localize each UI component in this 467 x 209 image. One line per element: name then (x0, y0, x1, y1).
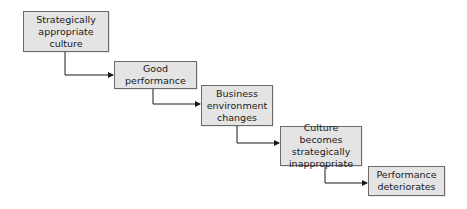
edge-n1-n2 (65, 52, 113, 75)
node-label: Strategically appropriate culture (36, 14, 96, 50)
edge-n2-n3 (153, 89, 200, 104)
node-strategically-appropriate-culture: Strategically appropriate culture (23, 11, 109, 52)
node-label: Culture becomes strategically inappropri… (284, 122, 358, 170)
node-performance-deteriorates: Performance deteriorates (368, 166, 445, 196)
node-label: Good performance (125, 63, 186, 87)
node-business-environment-changes: Business environment changes (201, 85, 273, 126)
node-good-performance: Good performance (114, 61, 197, 89)
edge-n3-n4 (237, 126, 279, 143)
node-culture-becomes-inappropriate: Culture becomes strategically inappropri… (280, 126, 362, 166)
node-label: Performance deteriorates (376, 169, 436, 193)
node-label: Business environment changes (207, 88, 268, 124)
